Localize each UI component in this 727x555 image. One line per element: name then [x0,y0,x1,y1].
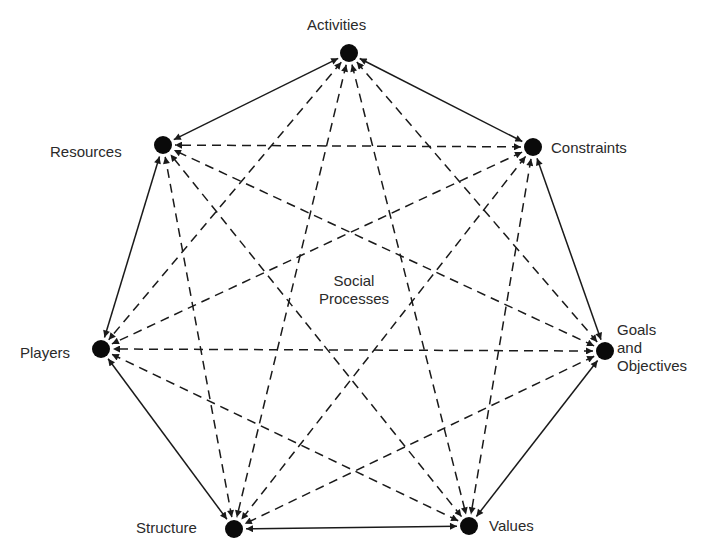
solid-edge-activities-resources [174,58,338,139]
node-dot-constraints [524,138,542,156]
node-dot-values [460,517,478,535]
node-dot-goals [596,342,614,360]
solid-edge-values-structure [246,526,457,529]
node-label-values: Values [489,517,534,535]
center-line-1: Social [306,272,402,290]
goals-line-3: Objectives [617,357,687,375]
node-dot-resources [154,136,172,154]
solid-edge-players-resources [105,157,160,338]
solid-edge-activities-constraints [360,59,523,142]
center-label-social-processes: Social Processes [306,272,402,308]
dashed-edge-values-resources [171,154,462,516]
node-label-players: Players [20,344,70,362]
node-dot-structure [225,520,243,538]
solid-edge-constraints-goals [537,158,601,339]
dashed-edge-constraints-structure [241,156,525,519]
goals-line-2: and [617,339,687,357]
node-dot-activities [340,44,358,62]
node-label-resources: Resources [50,143,122,161]
node-label-structure: Structure [136,519,197,537]
goals-line-1: Goals [617,321,687,339]
node-dot-players [92,340,110,358]
dashed-edge-goals-structure [245,356,594,524]
dashed-edge-goals-resources [174,150,594,346]
dashed-edge-constraints-players [112,152,522,344]
solid-edge-structure-players [108,359,227,520]
dashed-edge-structure-resources [165,157,232,517]
node-label-activities: Activities [307,16,366,34]
dashed-edge-goals-players [113,349,593,351]
dashed-edge-values-players [112,354,458,521]
dashed-edge-constraints-values [471,159,531,514]
node-label-constraints: Constraints [551,139,627,157]
node-label-goals-and-objectives: Goals and Objectives [617,321,687,375]
dashed-edge-constraints-resources [175,145,521,147]
center-line-2: Processes [306,290,402,308]
